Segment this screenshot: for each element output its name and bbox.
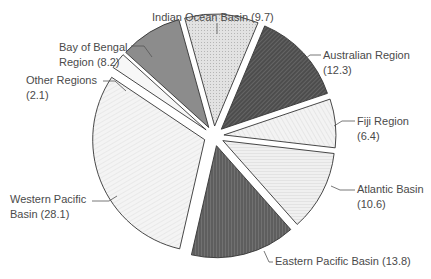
slice-label: Other Regions(2.1)	[26, 74, 97, 101]
slice-label: Western PacificBasin (28.1)	[10, 193, 87, 220]
slice-label: Bay of BengalRegion (8.2)	[59, 41, 128, 68]
slice-label: Australian Region(12.3)	[323, 49, 410, 76]
pie-slices	[93, 14, 336, 258]
slice-label: Atlantic Basin(10.6)	[357, 183, 424, 210]
leader-line	[334, 121, 355, 126]
leader-line	[331, 186, 355, 190]
slice-label: Indian Ocean Basin (9.7)	[152, 11, 274, 23]
pie-chart: Indian Ocean Basin (9.7)Australian Regio…	[0, 0, 431, 279]
leader-line	[264, 251, 273, 262]
slice-label: Fiji Region(6.4)	[357, 115, 409, 142]
slice-label: Eastern Pacific Basin (13.8)	[275, 255, 411, 267]
